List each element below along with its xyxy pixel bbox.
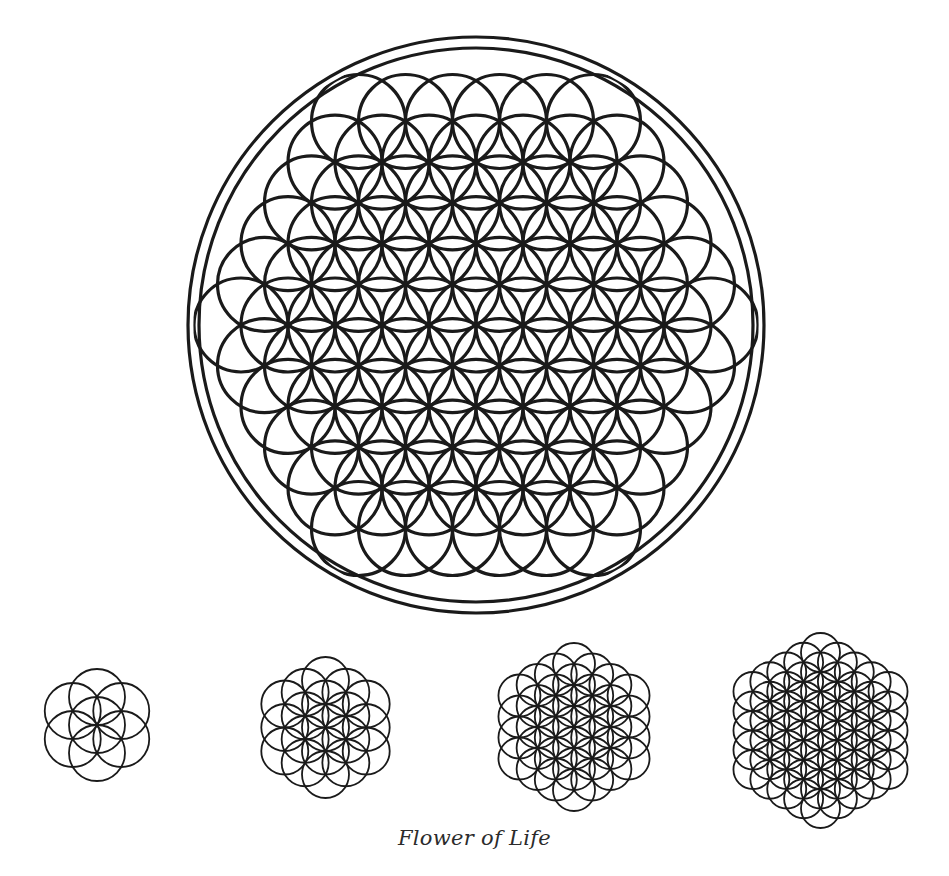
stage-fruit-37 xyxy=(485,638,663,816)
circle-lattice xyxy=(194,74,758,575)
flower-of-life-main-figure xyxy=(0,0,949,640)
figure-caption: Flower of Life xyxy=(0,826,949,850)
stage-seed-of-life xyxy=(36,664,158,786)
stage-egg-of-life-19 xyxy=(250,652,401,803)
stage-flower-61 xyxy=(718,628,923,833)
